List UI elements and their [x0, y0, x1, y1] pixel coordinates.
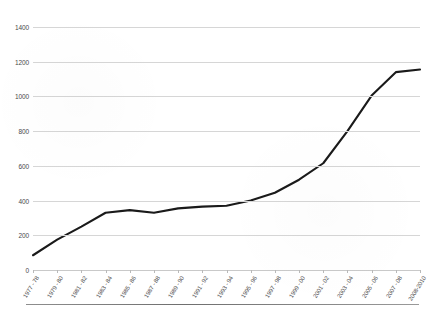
x-tick-mark: [178, 270, 179, 273]
x-tick-mark: [130, 270, 131, 273]
x-tick-mark: [57, 270, 58, 273]
x-tick-label: 1981 - 82: [70, 275, 88, 299]
gridline: [33, 235, 420, 236]
y-tick-label: 400: [18, 197, 29, 204]
y-tick-label: 600: [18, 162, 29, 169]
gridline: [33, 201, 420, 202]
gridline: [33, 166, 420, 167]
x-tick-mark: [396, 270, 397, 273]
x-tick-mark: [154, 270, 155, 273]
y-axis: 0200400600800100012001400: [0, 27, 29, 270]
x-tick-label: 1993 - 94: [216, 275, 234, 299]
x-tick-label: 1985 - 86: [119, 275, 137, 299]
page-divider-rule: [26, 304, 419, 305]
x-tick-label: 1989 - 90: [167, 275, 185, 299]
x-tick-label: 2007 - 08: [385, 275, 403, 299]
x-tick-label: 1995 - 96: [240, 275, 258, 299]
x-tick-mark: [251, 270, 252, 273]
plot-area: [33, 27, 420, 270]
x-tick-mark: [372, 270, 373, 273]
y-tick-label: 1400: [15, 24, 29, 31]
line-chart-figure: 0200400600800100012001400 1977 - 781979 …: [0, 0, 438, 319]
x-tick-label: 1979 - 80: [46, 275, 64, 299]
x-tick-mark: [227, 270, 228, 273]
x-tick-label: 1997 - 98: [264, 275, 282, 299]
x-tick-mark: [33, 270, 34, 273]
y-tick-label: 200: [18, 232, 29, 239]
x-tick-label: 1991 - 92: [191, 275, 209, 299]
gridline: [33, 131, 420, 132]
y-tick-label: 800: [18, 128, 29, 135]
gridline: [33, 62, 420, 63]
x-tick-label: 2003 - 04: [336, 275, 354, 299]
x-tick-mark: [299, 270, 300, 273]
gridline: [33, 27, 420, 28]
x-tick-mark: [420, 270, 421, 273]
y-tick-label: 1000: [15, 93, 29, 100]
x-tick-label: 1999 - 00: [288, 275, 306, 299]
x-tick-label: 1977 - 78: [22, 275, 40, 299]
y-tick-label: 1200: [15, 58, 29, 65]
x-tick-mark: [323, 270, 324, 273]
x-tick-mark: [81, 270, 82, 273]
x-tick-label: 2008-2010: [407, 275, 427, 302]
x-tick-label: 2001 - 02: [312, 275, 330, 299]
gridline: [33, 96, 420, 97]
x-tick-mark: [275, 270, 276, 273]
x-axis: 1977 - 781979 - 801981 - 821983 - 841985…: [0, 270, 438, 319]
x-tick-label: 1987 - 88: [143, 275, 161, 299]
x-tick-mark: [106, 270, 107, 273]
x-tick-label: 2005 - 06: [361, 275, 379, 299]
data-series-line: [33, 27, 420, 270]
x-tick-mark: [347, 270, 348, 273]
x-tick-label: 1983 - 84: [95, 275, 113, 299]
x-tick-mark: [202, 270, 203, 273]
